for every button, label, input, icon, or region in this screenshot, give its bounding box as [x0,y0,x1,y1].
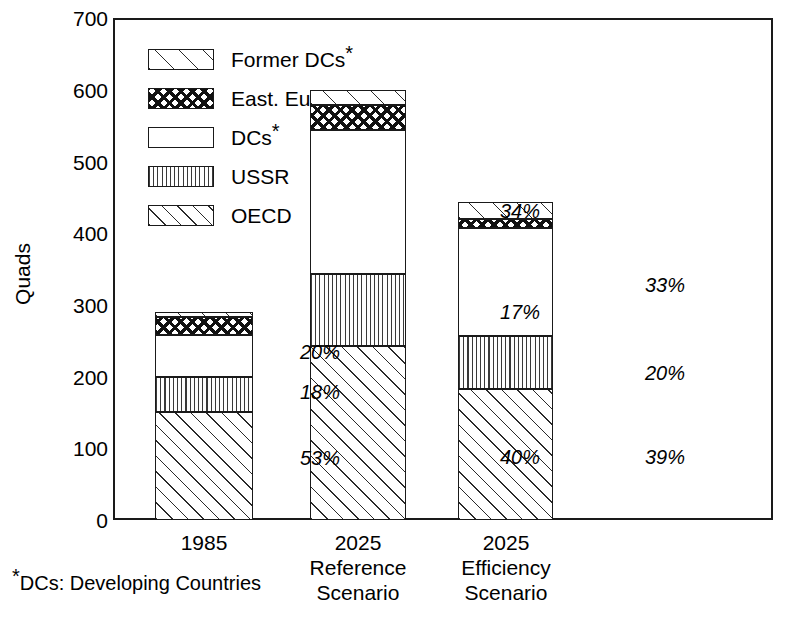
bar-segment-dcs[interactable] [155,335,253,377]
legend-label-former-dcs-text: Former DCs [231,48,345,71]
legend-label-former-dcs: Former DCs* [231,47,353,72]
x-axis-label-2025-efficiency-line3: Scenario [442,580,570,605]
y-axis-title: Quads [11,229,35,319]
bar-segment-east-europe[interactable] [155,317,253,335]
pct-label-2025ref-ussr: 17% [500,302,540,322]
pct-label-1985-dcs: 20% [300,342,340,362]
y-tick-label-200: 200 [73,367,108,388]
bar-segment-east-europe[interactable] [310,105,406,129]
bar-1985[interactable] [155,312,253,520]
stacked-bar-chart: 700 600 500 400 300 200 100 0 Quads Form… [0,0,788,624]
legend-star-dcs: * [272,120,280,142]
legend-swatch-ussr-icon [148,166,214,187]
x-axis-label-1985-line1: 1985 [140,530,268,555]
legend-label-ussr: USSR [231,164,289,189]
legend-swatch-oecd-icon [148,205,214,226]
legend-swatch-former-dcs-icon [148,49,214,70]
legend-star-former-dcs: * [345,42,353,64]
bar-segment-former-dcs[interactable] [310,90,406,106]
bar-segment-ussr[interactable] [155,377,253,413]
x-axis-label-1985: 1985 [140,530,268,555]
bar-segment-dcs[interactable] [310,130,406,274]
legend-swatch-dcs-icon [148,127,214,148]
pct-label-2025ref-dcs: 34% [500,201,540,221]
pct-label-2025eff-ussr: 20% [645,363,685,383]
pct-label-1985-ussr: 18% [300,382,340,402]
bar-segment-ussr[interactable] [310,274,406,346]
x-axis-label-2025-reference-line2: Reference [294,555,422,580]
pct-label-2025ref-oecd: 40% [500,447,540,467]
legend-label-oecd: OECD [231,203,292,228]
pct-label-2025eff-oecd: 39% [645,447,685,467]
y-axis-tick-labels: 700 600 500 400 300 200 100 0 [30,0,108,624]
legend-label-ussr-text: USSR [231,165,289,188]
x-axis-label-2025-efficiency-line1: 2025 [442,530,570,555]
bar-2025-efficiency[interactable] [458,202,553,520]
x-axis-label-2025-efficiency-line2: Efficiency [442,555,570,580]
x-axis-label-2025-reference-line3: Scenario [294,580,422,605]
y-tick-label-400: 400 [73,223,108,244]
y-tick-label-100: 100 [73,438,108,459]
y-tick-label-600: 600 [73,80,108,101]
bar-segment-former-dcs[interactable] [155,312,253,317]
y-tick-label-700: 700 [73,8,108,29]
y-tick-label-300: 300 [73,295,108,316]
bar-segment-oecd[interactable] [310,346,406,520]
legend-label-dcs-text: DCs [231,126,272,149]
x-axis-label-2025-reference: 2025 Reference Scenario [294,530,422,605]
legend-label-dcs: DCs* [231,125,280,150]
bar-segment-oecd[interactable] [155,412,253,520]
footnote: *DCs: Developing Countries [12,572,261,594]
x-axis-label-2025-reference-line1: 2025 [294,530,422,555]
bar-segment-ussr[interactable] [458,336,553,389]
y-tick-label-0: 0 [96,510,108,531]
footnote-star: * [12,565,20,587]
legend-label-oecd-text: OECD [231,204,292,227]
footnote-text: DCs: Developing Countries [20,572,261,594]
pct-label-1985-oecd: 53% [300,448,340,468]
pct-label-2025eff-dcs: 33% [645,275,685,295]
x-axis-label-2025-efficiency: 2025 Efficiency Scenario [442,530,570,605]
legend-swatch-east-europe-icon [148,88,214,109]
y-tick-label-500: 500 [73,152,108,173]
